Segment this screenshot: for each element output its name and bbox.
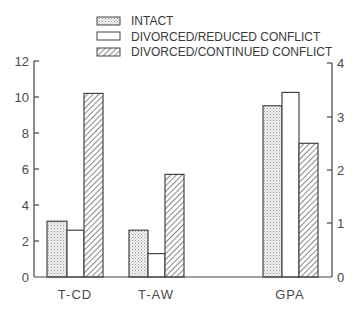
left-tick-label: 0 (22, 270, 29, 285)
left-y-axis: 0 2 4 6 8 10 12 (15, 54, 39, 285)
bar-chart: INTACT DIVORCED/REDUCED CONFLICT DIVORCE… (0, 0, 363, 309)
right-tick-label: 1 (337, 216, 344, 231)
legend-swatch-blank (97, 32, 120, 40)
legend-label: INTACT (131, 14, 174, 28)
left-tick-label: 12 (15, 54, 29, 69)
legend-item-divorced-reduced: DIVORCED/REDUCED CONFLICT (97, 30, 321, 44)
bar-intact (129, 230, 148, 277)
left-tick-label: 10 (15, 90, 29, 105)
bar-intact (47, 221, 67, 277)
bar-divorced-reduced (282, 92, 299, 277)
right-tick-label: 4 (337, 56, 344, 71)
right-tick-label: 2 (337, 163, 344, 178)
category-label-gpa: GPA (275, 287, 305, 302)
legend: INTACT DIVORCED/REDUCED CONFLICT DIVORCE… (97, 14, 333, 59)
legend-item-divorced-continued: DIVORCED/CONTINUED CONFLICT (97, 45, 333, 59)
category-label-t-cd: T-CD (58, 287, 92, 302)
bar-group-gpa (263, 92, 318, 277)
left-tick-label: 6 (22, 162, 29, 177)
right-y-axis: 0 1 2 3 4 (327, 56, 344, 285)
left-tick-label: 4 (22, 198, 29, 213)
legend-swatch-dotted (97, 17, 120, 25)
bar-divorced-reduced (67, 230, 84, 277)
bar-divorced-reduced (148, 254, 165, 277)
right-tick-label: 3 (337, 110, 344, 125)
bar-group-t-cd (47, 93, 103, 277)
legend-label: DIVORCED/REDUCED CONFLICT (131, 30, 321, 44)
bar-divorced-continued (299, 143, 318, 277)
category-label-t-aw: T-AW (138, 287, 174, 302)
legend-swatch-hatched (97, 48, 120, 56)
left-tick-label: 8 (22, 126, 29, 141)
bar-intact (263, 106, 282, 277)
right-tick-label: 0 (337, 270, 344, 285)
bar-divorced-continued (165, 174, 184, 277)
bar-group-t-aw (129, 174, 184, 277)
legend-label: DIVORCED/CONTINUED CONFLICT (131, 45, 333, 59)
left-tick-label: 2 (22, 234, 29, 249)
legend-item-intact: INTACT (97, 14, 174, 28)
bar-divorced-continued (84, 93, 103, 277)
